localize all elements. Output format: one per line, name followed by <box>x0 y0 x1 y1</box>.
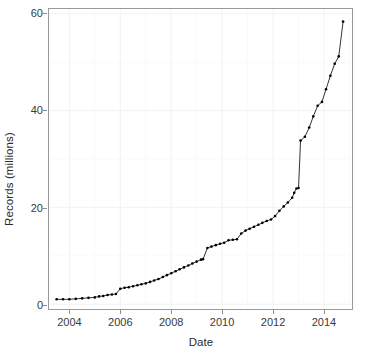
data-point <box>274 215 277 218</box>
data-point <box>55 298 58 301</box>
data-point <box>232 239 235 242</box>
data-point <box>253 225 256 228</box>
x-tick-mark-2014 <box>324 310 325 314</box>
data-point <box>293 192 296 195</box>
data-point <box>166 274 169 277</box>
data-point <box>299 139 302 142</box>
x-tick-mark-2010 <box>222 310 223 314</box>
data-point <box>62 298 65 301</box>
data-point <box>140 283 143 286</box>
data-point <box>297 187 300 190</box>
y-tick-label-60: 60 <box>31 8 43 19</box>
data-point <box>236 238 239 241</box>
data-point <box>227 239 230 242</box>
data-point <box>316 104 319 107</box>
data-point <box>202 258 205 261</box>
data-point <box>257 224 260 227</box>
data-point <box>153 279 156 282</box>
data-point <box>214 244 217 247</box>
x-tick-label-2004: 2004 <box>49 317 89 328</box>
x-tick-mark-2004 <box>69 310 70 314</box>
data-point <box>333 62 336 65</box>
data-point <box>102 295 105 298</box>
data-point <box>265 220 268 223</box>
data-point <box>244 229 247 232</box>
data-point <box>170 272 173 275</box>
y-axis-title: Records (millions) <box>0 0 18 358</box>
data-point <box>149 281 152 284</box>
y-tick-mark-40 <box>43 110 47 111</box>
x-tick-mark-2006 <box>120 310 121 314</box>
data-point <box>157 278 160 281</box>
y-tick-label-20: 20 <box>31 203 43 214</box>
data-point <box>74 298 77 301</box>
data-point <box>240 232 243 235</box>
data-point <box>287 201 290 204</box>
data-point <box>206 247 209 250</box>
data-point <box>132 285 135 288</box>
data-point <box>342 20 345 23</box>
data-point <box>337 55 340 58</box>
data-point <box>81 297 84 300</box>
y-tick-label-40: 40 <box>31 105 43 116</box>
data-point <box>304 135 307 138</box>
data-point <box>321 101 324 104</box>
data-point <box>325 88 328 91</box>
data-point <box>136 284 139 287</box>
data-point <box>187 264 190 267</box>
data-point <box>248 227 251 230</box>
plot-panel <box>48 8 353 310</box>
data-point <box>210 245 213 248</box>
data-point <box>87 297 90 300</box>
data-point <box>127 286 130 289</box>
data-point <box>174 270 177 273</box>
x-tick-label-2014: 2014 <box>304 317 344 328</box>
data-point <box>191 262 194 265</box>
data-point <box>115 293 118 296</box>
data-point <box>278 209 281 212</box>
data-point <box>94 296 97 299</box>
data-point <box>119 287 122 290</box>
y-tick-mark-60 <box>43 13 47 14</box>
y-tick-mark-0 <box>43 305 47 306</box>
data-point <box>312 115 315 118</box>
chart-figure: Records (millions) Date 60 40 20 0 2004 … <box>0 0 375 358</box>
data-point <box>111 293 114 296</box>
data-point <box>162 276 165 279</box>
y-tick-label-0: 0 <box>37 300 43 311</box>
data-point <box>261 222 264 225</box>
data-point <box>106 294 109 297</box>
x-tick-label-2012: 2012 <box>253 317 293 328</box>
gridlines-minor <box>49 9 352 309</box>
data-point <box>98 295 101 298</box>
data-point <box>183 266 186 269</box>
data-point <box>219 242 222 245</box>
data-point <box>178 268 181 271</box>
plot-area <box>49 9 352 309</box>
y-tick-mark-20 <box>43 208 47 209</box>
x-tick-mark-2008 <box>171 310 172 314</box>
x-axis-title: Date <box>48 336 354 348</box>
data-point <box>270 218 273 221</box>
x-tick-label-2008: 2008 <box>151 317 191 328</box>
x-tick-label-2006: 2006 <box>100 317 140 328</box>
data-point <box>123 286 126 289</box>
x-tick-mark-2012 <box>273 310 274 314</box>
data-point <box>144 282 147 285</box>
series-line-records <box>57 22 343 300</box>
data-point <box>282 205 285 208</box>
data-point <box>195 260 198 263</box>
data-point <box>291 196 294 199</box>
data-point <box>308 126 311 129</box>
data-point <box>223 241 226 244</box>
data-point <box>329 74 332 77</box>
x-tick-label-2010: 2010 <box>202 317 242 328</box>
data-point <box>68 298 71 301</box>
